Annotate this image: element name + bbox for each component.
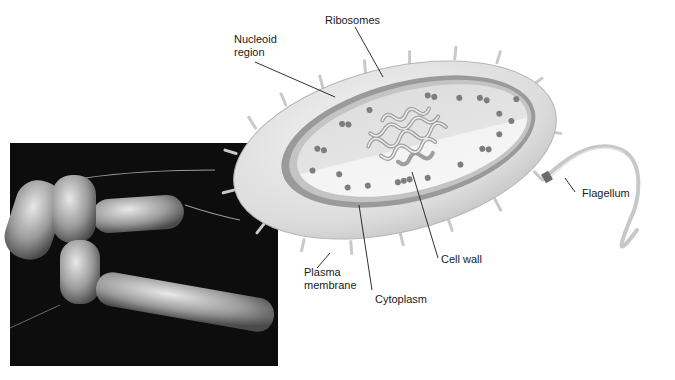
label-plasma-membrane: Plasma membrane [304,266,357,292]
label-cytoplasm: Cytoplasm [375,293,427,306]
label-ribosomes: Ribosomes [325,14,380,27]
label-cell-wall: Cell wall [441,253,482,266]
label-nucleoid-region: Nucleoid region [234,33,277,59]
prokaryote-figure: Ribosomes Nucleoid region Flagellum Plas… [0,0,675,380]
figure-artwork [0,0,675,380]
label-flagellum: Flagellum [582,187,630,200]
